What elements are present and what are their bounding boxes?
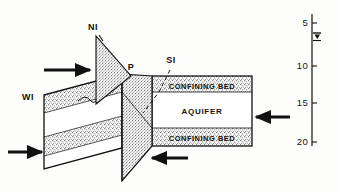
label-si: SI bbox=[166, 55, 175, 65]
label-p: P bbox=[128, 62, 134, 72]
label-wi: WI bbox=[22, 92, 34, 102]
water-table-triangle-icon bbox=[313, 33, 321, 41]
depth-scale: 5 10 15 20 bbox=[297, 14, 321, 147]
section-plane bbox=[122, 74, 152, 181]
scale-label-15: 15 bbox=[297, 97, 308, 108]
label-upper-confining-bed: CONFINING BED bbox=[169, 82, 235, 91]
scale-label-5: 5 bbox=[302, 17, 308, 28]
label-ni: NI bbox=[88, 22, 98, 32]
block-diagram-svg: NI P SI WI CONFINING BED AQUIFER CONFINI… bbox=[0, 0, 339, 193]
scale-label-20: 20 bbox=[297, 136, 308, 147]
section-plane-face bbox=[122, 74, 152, 181]
scale-label-10: 10 bbox=[297, 60, 308, 71]
figure-canvas: NI P SI WI CONFINING BED AQUIFER CONFINI… bbox=[0, 0, 339, 193]
label-aquifer: AQUIFER bbox=[182, 107, 223, 116]
label-lower-confining-bed: CONFINING BED bbox=[169, 134, 235, 143]
